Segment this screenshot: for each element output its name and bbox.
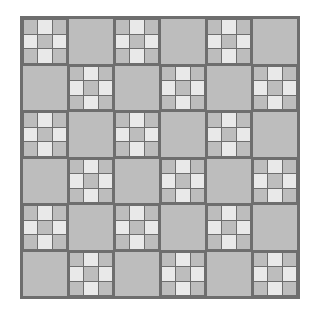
sub-square-light xyxy=(84,96,97,110)
sub-square-dark xyxy=(162,189,175,203)
sub-square-light xyxy=(176,67,189,81)
sub-square-dark xyxy=(38,35,51,49)
sub-square-dark xyxy=(237,20,250,34)
sub-square-dark xyxy=(53,235,66,249)
sub-square-light xyxy=(84,282,97,296)
sub-square-dark xyxy=(283,160,296,174)
sub-square-dark xyxy=(70,96,83,110)
sub-square-dark xyxy=(116,235,129,249)
plain-tile xyxy=(68,204,114,251)
sub-square-dark xyxy=(162,253,175,267)
sub-square-dark xyxy=(84,267,97,281)
sub-square-dark xyxy=(208,142,221,156)
sub-square-light xyxy=(254,81,267,95)
sub-square-light xyxy=(38,49,51,63)
sub-square-light xyxy=(176,96,189,110)
pattern-board xyxy=(20,16,300,299)
sub-square-light xyxy=(70,174,83,188)
subdivided-tile xyxy=(114,204,160,251)
plain-tile xyxy=(22,65,68,112)
sub-square-dark xyxy=(116,113,129,127)
sub-square-light xyxy=(162,174,175,188)
sub-square-dark xyxy=(162,282,175,296)
sub-square-light xyxy=(176,160,189,174)
plain-tile xyxy=(206,65,252,112)
sub-square-dark xyxy=(116,206,129,220)
sub-square-light xyxy=(84,189,97,203)
plain-tile xyxy=(22,251,68,298)
sub-square-light xyxy=(53,128,66,142)
sub-square-light xyxy=(176,253,189,267)
sub-square-light xyxy=(24,221,37,235)
sub-square-dark xyxy=(191,253,204,267)
subdivided-tile xyxy=(22,18,68,65)
sub-square-dark xyxy=(208,113,221,127)
sub-square-dark xyxy=(84,81,97,95)
sub-square-dark xyxy=(191,282,204,296)
sub-square-light xyxy=(116,128,129,142)
sub-square-dark xyxy=(70,282,83,296)
sub-square-light xyxy=(70,81,83,95)
subdivided-tile xyxy=(160,65,206,112)
sub-square-dark xyxy=(38,128,51,142)
sub-square-light xyxy=(130,49,143,63)
sub-square-light xyxy=(222,20,235,34)
sub-square-dark xyxy=(116,49,129,63)
sub-square-light xyxy=(130,235,143,249)
sub-square-light xyxy=(145,35,158,49)
sub-square-dark xyxy=(254,253,267,267)
sub-square-dark xyxy=(191,96,204,110)
sub-square-dark xyxy=(145,206,158,220)
sub-square-light xyxy=(268,96,281,110)
plain-tile xyxy=(160,204,206,251)
sub-square-dark xyxy=(254,189,267,203)
sub-square-dark xyxy=(53,20,66,34)
plain-tile xyxy=(206,158,252,205)
sub-square-light xyxy=(116,35,129,49)
sub-square-light xyxy=(208,221,221,235)
sub-square-dark xyxy=(130,221,143,235)
sub-square-dark xyxy=(237,49,250,63)
plain-tile xyxy=(160,111,206,158)
plain-tile xyxy=(114,251,160,298)
plain-tile xyxy=(114,65,160,112)
sub-square-light xyxy=(268,282,281,296)
sub-square-light xyxy=(283,174,296,188)
sub-square-dark xyxy=(283,282,296,296)
sub-square-dark xyxy=(145,49,158,63)
sub-square-dark xyxy=(116,142,129,156)
sub-square-dark xyxy=(191,67,204,81)
sub-square-light xyxy=(222,142,235,156)
sub-square-light xyxy=(84,160,97,174)
sub-square-light xyxy=(208,128,221,142)
sub-square-dark xyxy=(38,221,51,235)
sub-square-light xyxy=(191,174,204,188)
sub-square-light xyxy=(24,35,37,49)
sub-square-light xyxy=(38,206,51,220)
subdivided-tile xyxy=(22,204,68,251)
subdivided-tile xyxy=(252,65,298,112)
sub-square-light xyxy=(268,253,281,267)
sub-square-light xyxy=(237,221,250,235)
subdivided-tile xyxy=(252,158,298,205)
sub-square-dark xyxy=(162,67,175,81)
subdivided-tile xyxy=(22,111,68,158)
sub-square-dark xyxy=(99,160,112,174)
sub-square-dark xyxy=(70,189,83,203)
sub-square-dark xyxy=(208,206,221,220)
sub-square-light xyxy=(99,267,112,281)
sub-square-dark xyxy=(237,235,250,249)
sub-square-dark xyxy=(254,160,267,174)
sub-square-dark xyxy=(99,67,112,81)
sub-square-light xyxy=(38,20,51,34)
sub-square-dark xyxy=(24,235,37,249)
sub-square-dark xyxy=(130,35,143,49)
subdivided-tile xyxy=(206,204,252,251)
sub-square-light xyxy=(162,267,175,281)
sub-square-light xyxy=(283,267,296,281)
sub-square-dark xyxy=(130,128,143,142)
sub-square-dark xyxy=(237,206,250,220)
sub-square-light xyxy=(254,267,267,281)
sub-square-dark xyxy=(191,189,204,203)
sub-square-light xyxy=(283,81,296,95)
